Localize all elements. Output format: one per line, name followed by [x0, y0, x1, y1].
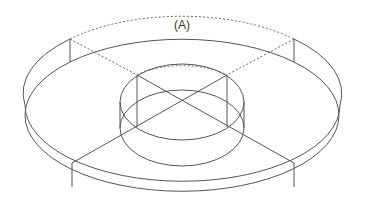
- hub-mid-edge: [120, 90, 244, 128]
- hub-bottom-edge: [120, 128, 244, 166]
- section-line-1: [137, 75, 294, 163]
- outer-side-right: [294, 39, 342, 105]
- section-line-2: [72, 75, 227, 163]
- inner-top-edge-removed: [137, 66, 227, 75]
- section-label: (A): [174, 18, 190, 32]
- ring-diagram: (A): [0, 0, 365, 220]
- outer-lower-edge-back: [70, 39, 294, 62]
